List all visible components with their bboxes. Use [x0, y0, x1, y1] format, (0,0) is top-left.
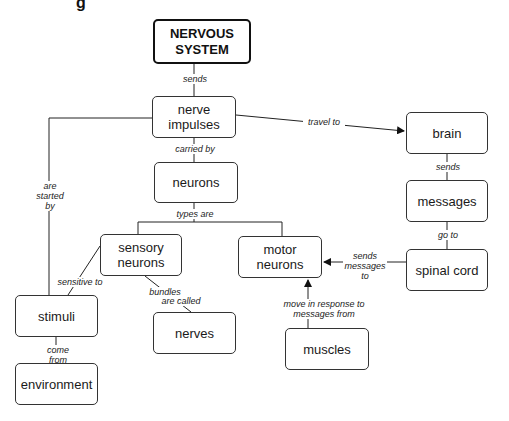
link-label-go-to: go to [434, 230, 462, 240]
node-label: spinal cord [416, 263, 479, 278]
link-label-sends: sends [180, 74, 210, 84]
node-label: motor neurons [257, 242, 304, 272]
node-muscles[interactable]: muscles [285, 328, 369, 370]
link-label-carried-by: carried by [168, 144, 222, 154]
node-label: messages [417, 194, 476, 209]
node-stimuli[interactable]: stimuli [15, 295, 98, 337]
node-environment[interactable]: environment [15, 363, 98, 405]
link-label-sends-messages-to: sends messages to [343, 251, 387, 281]
link-label-move-in-response: move in response to messages from [280, 299, 368, 319]
node-nervous-system[interactable]: NERVOUS SYSTEM [153, 19, 251, 64]
node-label: NERVOUS SYSTEM [170, 26, 234, 58]
node-brain[interactable]: brain [406, 112, 488, 154]
node-label: nerve impulses [168, 102, 219, 132]
node-label: sensory neurons [118, 240, 165, 270]
link-label-come-from: come from [36, 345, 80, 365]
node-nerves[interactable]: nerves [153, 312, 236, 354]
node-motor-neurons[interactable]: motor neurons [238, 236, 322, 278]
link-label-sensitive-to: sensitive to [56, 277, 104, 287]
node-nerve-impulses[interactable]: nerve impulses [152, 96, 236, 138]
node-label: brain [433, 126, 462, 141]
link-label-sends-2: sends [433, 162, 463, 172]
node-label: nerves [175, 326, 214, 341]
node-label: environment [21, 377, 93, 392]
node-messages[interactable]: messages [406, 180, 488, 222]
node-neurons[interactable]: neurons [154, 162, 238, 203]
node-label: muscles [303, 342, 351, 357]
node-label: stimuli [38, 309, 75, 324]
link-label-are-started-by: are started by [31, 181, 69, 211]
link-label-are-called: are called [160, 296, 202, 306]
node-sensory-neurons[interactable]: sensory neurons [100, 234, 182, 276]
clipped-title-fragment: g [76, 0, 86, 12]
link-label-types-are: types are [170, 209, 220, 219]
node-label: neurons [173, 175, 220, 190]
link-label-travel-to: travel to [303, 117, 345, 127]
node-spinal-cord[interactable]: spinal cord [406, 249, 488, 291]
